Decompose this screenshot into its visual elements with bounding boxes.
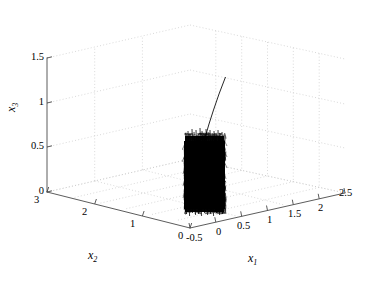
tick-label-x2-2: 2 [82, 207, 87, 218]
axis-label-x2-sub: 2 [93, 255, 97, 264]
tick-label-x3-3: 1.5 [14, 52, 44, 63]
axis-spine-x2 [47, 192, 190, 228]
axis-label-x3: x3 [5, 103, 20, 112]
tick-label-x1-1: 1 [267, 215, 272, 226]
tick-label-x1-0: 0 [216, 227, 221, 238]
tick-label-x1-2: 2 [318, 203, 323, 214]
axis-label-x1-sub: 1 [253, 258, 257, 267]
axis-label-x3-base: x [4, 107, 18, 112]
grid-back-left-wall [47, 25, 190, 192]
figure-3d-attractor: 0 0.5 1 1.5 3 2 1 0 -0.5 0 0.5 1 1.5 2 2… [0, 0, 378, 284]
tick-label-x1-25: 2.5 [339, 188, 352, 199]
tickmarks-x3 [47, 57, 52, 192]
axis-label-x1: x1 [248, 252, 257, 267]
axis-label-x3-sub: 3 [11, 103, 20, 107]
tick-label-x2-3: 3 [34, 195, 39, 206]
axis-label-x2: x2 [88, 249, 97, 264]
tickmarks-x2 [47, 187, 192, 228]
tick-label-x2-1: 1 [130, 219, 135, 230]
tick-label-x1-n05: -0.5 [186, 233, 203, 244]
tick-label-x3-1: 0.5 [14, 141, 44, 152]
tick-label-x3-0: 0 [22, 186, 44, 197]
tick-label-x2-0: 0 [178, 231, 183, 242]
tick-label-x1-05: 0.5 [237, 221, 250, 232]
tick-label-x3-2: 1 [22, 97, 44, 108]
tick-label-x1-15: 1.5 [288, 209, 301, 220]
